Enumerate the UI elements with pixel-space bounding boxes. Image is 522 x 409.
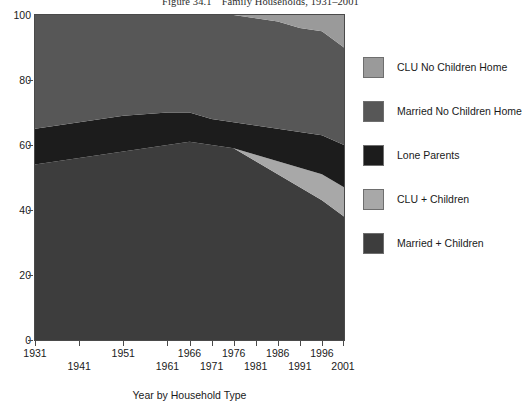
legend-swatch-icon <box>363 57 384 78</box>
y-tick-mark <box>28 210 33 211</box>
figure-number: Figure 34.1 <box>162 0 212 7</box>
x-tick-mark <box>278 341 279 346</box>
legend-swatch-icon <box>363 189 384 210</box>
x-tick-mark <box>212 341 213 346</box>
x-axis: 1931194119511961196619711976198119861991… <box>34 341 345 387</box>
legend-item[interactable]: CLU + Children <box>363 188 469 210</box>
x-tick-label: 1976 <box>222 348 245 359</box>
y-tick-mark <box>28 275 33 276</box>
figure-title-text: Family Households, 1931–2001 <box>222 0 359 7</box>
x-tick-mark <box>190 341 191 346</box>
x-tick-label: 1951 <box>112 348 135 359</box>
legend-item-label: Married + Children <box>397 238 484 249</box>
x-tick-mark <box>234 341 235 346</box>
x-tick-mark <box>35 341 36 346</box>
x-tick-mark <box>343 341 344 346</box>
x-tick-label: 2001 <box>331 361 354 372</box>
legend-item[interactable]: Married + Children <box>363 232 484 254</box>
x-tick-label: 1996 <box>310 348 333 359</box>
legend-swatch-icon <box>363 233 384 254</box>
x-tick-mark <box>300 341 301 346</box>
legend-item-label: Married No Children Home <box>397 106 522 117</box>
plot-area <box>34 14 345 341</box>
x-tick-mark <box>256 341 257 346</box>
x-axis-title: Year by Household Type <box>34 389 345 401</box>
y-tick-label: 100 <box>5 10 31 20</box>
legend-item[interactable]: Lone Parents <box>363 144 459 166</box>
legend-item-label: Lone Parents <box>397 150 459 161</box>
x-tick-mark <box>322 341 323 346</box>
y-tick-mark <box>28 145 33 146</box>
x-tick-label: 1986 <box>266 348 289 359</box>
legend-item[interactable]: CLU No Children Home <box>363 56 507 78</box>
x-tick-mark <box>167 341 168 346</box>
legend-item-label: CLU No Children Home <box>397 62 507 73</box>
x-tick-mark <box>123 341 124 346</box>
legend-item[interactable]: Married No Children Home <box>363 100 522 122</box>
x-tick-label: 1941 <box>67 361 90 372</box>
x-tick-label: 1971 <box>200 361 223 372</box>
stacked-area-chart <box>35 15 344 340</box>
legend-swatch-icon <box>363 145 384 166</box>
x-tick-label: 1961 <box>156 361 179 372</box>
legend-swatch-icon <box>363 101 384 122</box>
x-tick-label: 1991 <box>288 361 311 372</box>
figure-title: Figure 34.1Family Households, 1931–2001 <box>0 0 521 8</box>
y-tick-mark <box>28 340 33 341</box>
x-tick-label: 1931 <box>23 348 46 359</box>
x-tick-label: 1981 <box>244 361 267 372</box>
x-tick-mark <box>79 341 80 346</box>
legend-item-label: CLU + Children <box>397 194 469 205</box>
x-tick-label: 1966 <box>178 348 201 359</box>
y-tick-mark <box>28 80 33 81</box>
